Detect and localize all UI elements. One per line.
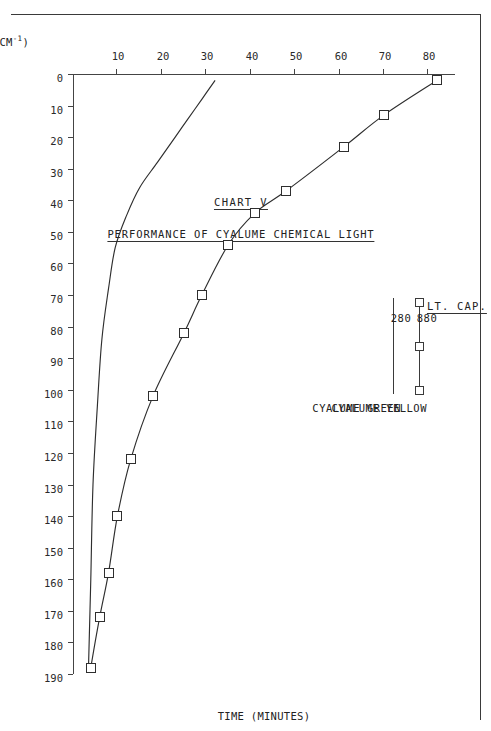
data-point-marker <box>95 612 105 622</box>
y-tick <box>383 69 384 74</box>
figure-border-left <box>11 14 481 15</box>
x-tick <box>68 232 73 233</box>
x-tick-label: 190 <box>44 672 63 684</box>
x-tick <box>68 263 73 264</box>
x-tick-label: 130 <box>44 483 63 495</box>
y-tick <box>427 69 428 74</box>
x-tick <box>68 295 73 296</box>
data-point-marker <box>86 663 96 673</box>
y-tick-label: 10 <box>112 50 125 62</box>
y-tick-label: 80 <box>423 50 436 62</box>
y-tick-label: 50 <box>290 50 303 62</box>
x-tick <box>68 358 73 359</box>
x-tick-label: 170 <box>44 609 63 621</box>
x-tick-label: 180 <box>44 640 63 652</box>
x-tick-label: 0 <box>57 72 63 84</box>
data-point-marker <box>379 110 389 120</box>
x-tick <box>68 200 73 201</box>
y-tick-label: 70 <box>379 50 392 62</box>
y-tick-label: 20 <box>157 50 170 62</box>
data-point-marker <box>281 186 291 196</box>
x-tick-label: 30 <box>50 167 63 179</box>
y-tick-label: 30 <box>201 50 214 62</box>
x-tick-label: 20 <box>50 135 63 147</box>
x-tick-label: 120 <box>44 451 63 463</box>
x-tick <box>68 421 73 422</box>
data-point-marker <box>104 568 114 578</box>
data-point-marker <box>179 328 189 338</box>
x-tick <box>68 74 73 75</box>
x-tick-label: 150 <box>44 546 63 558</box>
data-point-marker <box>148 391 158 401</box>
x-tick-label: 40 <box>50 198 63 210</box>
x-tick <box>68 106 73 107</box>
x-tick <box>68 611 73 612</box>
x-tick-label: 10 <box>50 104 63 116</box>
data-point-marker <box>250 208 260 218</box>
x-tick-label: 160 <box>44 577 63 589</box>
y-tick <box>205 69 206 74</box>
x-tick-label: 60 <box>50 261 63 273</box>
y-tick <box>339 69 340 74</box>
data-point-marker <box>126 454 136 464</box>
y-axis-title-tail: ) <box>22 36 29 48</box>
x-tick-label: 100 <box>44 388 63 400</box>
x-tick <box>68 674 73 675</box>
y-tick <box>116 69 117 74</box>
x-tick <box>68 642 73 643</box>
data-point-marker <box>112 511 122 521</box>
x-tick <box>68 579 73 580</box>
x-tick-label: 50 <box>50 230 63 242</box>
x-tick <box>68 137 73 138</box>
x-axis-title: TIME (MINUTES) <box>218 710 311 722</box>
y-tick <box>294 69 295 74</box>
y-tick <box>161 69 162 74</box>
y-tick-label: 40 <box>245 50 258 62</box>
y-axis-title: BRIGHTNESS (FT. LMBT. CM-1) <box>0 34 29 48</box>
plot-area: 0102030405060708090100110120130140150160… <box>73 74 455 674</box>
x-tick-label: 110 <box>44 419 63 431</box>
data-point-marker <box>432 75 442 85</box>
x-tick-label: 140 <box>44 514 63 526</box>
figure-border-top <box>480 14 481 720</box>
x-tick <box>68 516 73 517</box>
x-tick <box>68 390 73 391</box>
x-tick <box>68 327 73 328</box>
x-tick <box>68 169 73 170</box>
y-tick <box>250 69 251 74</box>
x-tick <box>68 548 73 549</box>
x-tick-label: 80 <box>50 325 63 337</box>
figure-page: CHART V PERFORMANCE OF CYALUME CHEMICAL … <box>0 0 491 731</box>
x-tick <box>68 485 73 486</box>
y-axis-title-exponent: -1 <box>13 34 23 43</box>
x-tick-label: 70 <box>50 293 63 305</box>
y-axis-title-text: BRIGHTNESS (FT. LMBT. CM <box>0 36 13 48</box>
series-curve-yellow <box>91 80 437 667</box>
x-tick-label: 90 <box>50 356 63 368</box>
data-point-marker <box>197 290 207 300</box>
data-point-marker <box>223 240 233 250</box>
data-point-marker <box>339 142 349 152</box>
x-tick <box>68 453 73 454</box>
rotated-figure-wrapper: CHART V PERFORMANCE OF CYALUME CHEMICAL … <box>0 0 491 731</box>
y-tick-label: 60 <box>334 50 347 62</box>
curve-layer <box>73 74 455 674</box>
